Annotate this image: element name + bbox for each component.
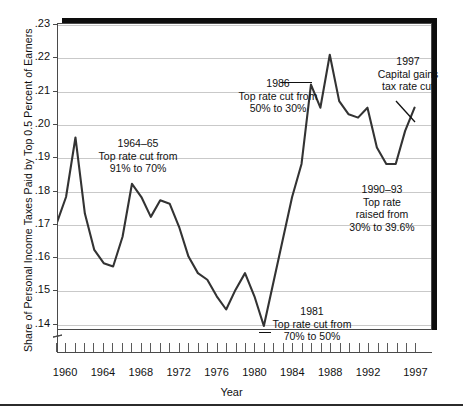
x-tick-mark [311,343,312,352]
x-tick-mark [226,343,227,352]
x-tick-label: 1997 [395,367,435,378]
x-tick-mark [150,343,151,352]
x-tick-mark [349,343,350,352]
x-tick-mark [179,343,180,352]
leader-line-1981 [259,332,271,333]
x-axis-title: Year [0,386,463,398]
y-tick-label: .23 [20,18,50,29]
x-tick-mark [302,343,303,352]
x-tick-mark [169,343,170,352]
x-tick-label: 1964 [83,367,123,378]
x-tick-mark [254,343,255,352]
x-tick-mark [378,343,379,352]
x-tick-mark [84,343,85,352]
x-tick-mark [122,343,123,352]
x-tick-mark [321,343,322,352]
x-tick-label: 1960 [45,367,85,378]
x-tick-mark [131,343,132,352]
x-tick-mark [207,343,208,352]
annotation-1990-93: 1990–93 Top rate raised from 30% to 39.6… [332,183,432,233]
chart-figure: .14.15.16.17.18.19.20.21.22.23 Share of … [0,0,463,411]
x-tick-mark [415,343,416,352]
x-tick-label: 1980 [234,367,274,378]
y-tick-mark [53,290,58,291]
x-tick-mark [75,343,76,352]
x-tick-mark [56,343,57,352]
x-tick-label: 1976 [197,367,237,378]
x-tick-mark [245,343,246,352]
bottom-rule [0,404,463,406]
y-tick-mark [53,224,58,225]
annotation-1981: 1981 Top rate cut from 70% to 50% [252,305,372,343]
x-axis-line [57,352,432,353]
x-tick-label: 1972 [159,367,199,378]
x-tick-mark [368,343,369,352]
x-tick-mark [198,343,199,352]
y-tick-mark [53,191,58,192]
annotation-1964-65: 1964–65 Top rate cut from 91% to 70% [78,137,198,175]
y-tick-mark [53,124,58,125]
x-tick-mark [283,343,284,352]
x-tick-mark [217,343,218,352]
y-tick-mark [53,57,58,58]
y-tick-mark [53,257,58,258]
annotation-1997: 1997 Capital gains tax rate cut [360,55,456,93]
x-tick-mark [188,343,189,352]
x-tick-mark [112,343,113,352]
x-tick-mark [160,343,161,352]
x-tick-mark [406,343,407,352]
x-tick-mark [330,343,331,352]
y-tick-mark [53,91,58,92]
x-tick-mark [103,343,104,352]
leader-line-1997 [395,100,417,124]
x-tick-mark [141,343,142,352]
axis-break-icon [53,334,62,338]
x-tick-mark [292,343,293,352]
y-axis-title: Share of Personal Income Taxes Paid by T… [22,28,34,352]
x-tick-mark [340,343,341,352]
leader-line-1986 [281,82,312,83]
x-tick-mark [236,343,237,352]
x-tick-mark [273,343,274,352]
x-tick-mark [93,343,94,352]
x-tick-mark [387,343,388,352]
x-tick-mark [65,343,66,352]
x-tick-label: 1968 [121,367,161,378]
x-tick-label: 1992 [348,367,388,378]
x-tick-mark [264,343,265,352]
annotation-1986: 1986 Top rate cut from 50% to 30% [218,77,338,115]
x-tick-mark [397,343,398,352]
x-tick-label: 1988 [310,367,350,378]
y-tick-mark [53,24,58,25]
x-tick-label: 1984 [272,367,312,378]
x-tick-mark [359,343,360,352]
y-tick-mark [53,157,58,158]
y-tick-mark [53,324,58,325]
